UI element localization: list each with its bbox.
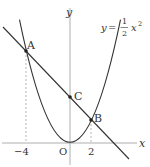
svg-text:y: y (100, 22, 107, 33)
point-c (68, 95, 72, 99)
y-axis-label: y (65, 6, 73, 19)
label-a: A (26, 39, 36, 52)
svg-text:x: x (131, 22, 137, 33)
svg-text:2: 2 (122, 29, 127, 38)
origin-label: O (59, 146, 67, 157)
label-b: B (94, 112, 102, 125)
x-axis-label: x (139, 137, 146, 150)
svg-text:2: 2 (138, 20, 142, 28)
svg-text:=: = (108, 22, 116, 33)
curve-equation: y = 1 2 x 2 (100, 17, 142, 38)
tick-neg4: −4 (14, 146, 29, 157)
parabola-line-diagram: A C B y x O −4 2 y = 1 2 x 2 (0, 0, 150, 167)
tick-2: 2 (88, 146, 94, 157)
line-ab (3, 27, 129, 159)
point-b (89, 118, 93, 122)
label-c: C (74, 90, 82, 103)
svg-text:1: 1 (122, 17, 127, 26)
